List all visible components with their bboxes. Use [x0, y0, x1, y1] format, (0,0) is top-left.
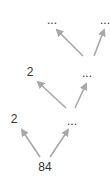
node-l3-right: ...: [100, 13, 110, 27]
tree-diagram: 84 2 ... 2 ... ... ...: [0, 0, 110, 180]
node-root: 84: [38, 160, 52, 174]
node-l1-left: 2: [11, 112, 18, 126]
edge-l1-right-to-l2-left: [38, 82, 66, 108]
edge-l2-right-to-l3-left: [57, 30, 83, 56]
node-l1-right: ...: [67, 114, 77, 128]
node-l2-left: 2: [27, 65, 34, 79]
node-l3-left: ...: [47, 13, 57, 27]
node-l2-right: ...: [82, 66, 92, 80]
edge-root-to-right: [50, 130, 68, 157]
edge-l2-right-to-l3-right: [94, 30, 104, 56]
edge-root-to-left: [22, 130, 40, 157]
edge-l1-right-to-l2-right: [75, 84, 86, 108]
